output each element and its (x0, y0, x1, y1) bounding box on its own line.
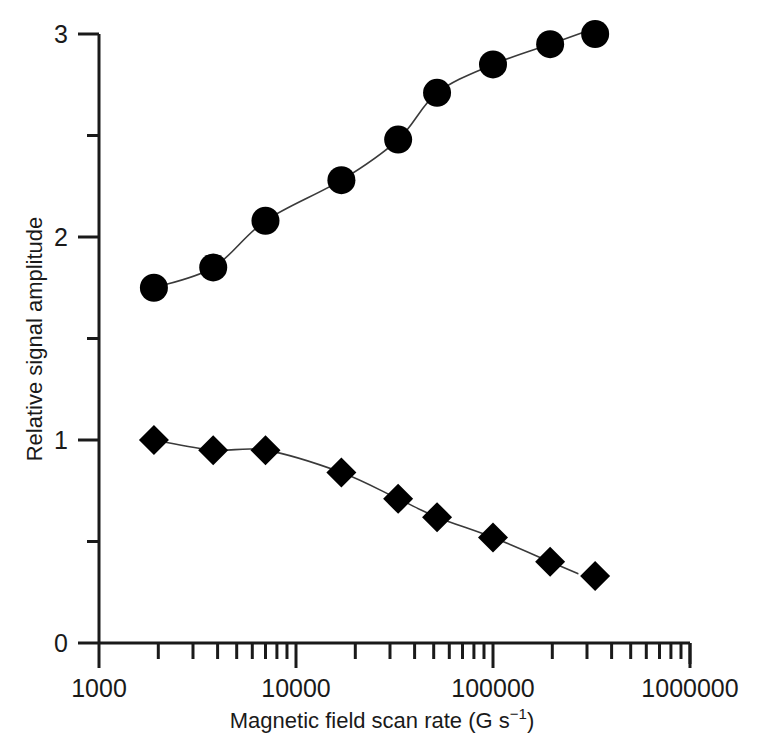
y-tick-label: 1 (54, 426, 68, 454)
data-point-diamond (422, 502, 452, 532)
x-tick-label: 10000 (261, 674, 331, 702)
x-axis-title-superscript: −1 (510, 705, 527, 722)
data-point-diamond (383, 484, 413, 514)
x-axis-title-base: Magnetic field scan rate (G s (230, 708, 510, 733)
data-point-diamond (139, 425, 169, 455)
y-axis-tick-labels: 0123 (54, 20, 68, 657)
data-point-diamond (250, 435, 280, 465)
data-point-circle (423, 79, 451, 107)
x-axis-tick-labels: 1000100001000001000000 (71, 674, 738, 702)
data-point-diamond (535, 547, 565, 577)
x-tick-label: 100000 (451, 674, 534, 702)
data-point-circle (327, 166, 355, 194)
chart-figure: 0123 1000100001000001000000 Relative sig… (0, 0, 763, 751)
data-point-diamond (326, 457, 356, 487)
y-tick-label: 0 (54, 629, 68, 657)
y-tick-label: 2 (54, 223, 68, 251)
x-tick-label: 1000000 (641, 674, 738, 702)
plot-canvas: 0123 1000100001000001000000 Relative sig… (0, 0, 763, 751)
x-tick-label: 1000 (71, 674, 127, 702)
fit-curve-circles (154, 33, 582, 288)
x-axis-major-ticks (99, 643, 690, 668)
data-point-diamond (580, 561, 610, 591)
x-axis-minor-ticks (158, 643, 681, 659)
data-point-diamond (478, 522, 508, 552)
series-fit-curves (154, 33, 582, 574)
y-tick-label: 3 (54, 20, 68, 48)
x-axis-title: Magnetic field scan rate (G s−1) (230, 705, 534, 733)
data-point-circle (581, 20, 609, 48)
data-point-circle (251, 207, 279, 235)
y-axis-title: Relative signal amplitude (22, 217, 47, 462)
data-point-circle (384, 126, 412, 154)
series-data-markers (139, 20, 610, 591)
y-axis-minor-ticks (87, 136, 99, 542)
data-point-circle (140, 274, 168, 302)
data-point-circle (479, 50, 507, 78)
data-point-circle (199, 253, 227, 281)
data-point-diamond (198, 435, 228, 465)
x-axis-title-tail: ) (527, 708, 534, 733)
data-point-circle (536, 30, 564, 58)
